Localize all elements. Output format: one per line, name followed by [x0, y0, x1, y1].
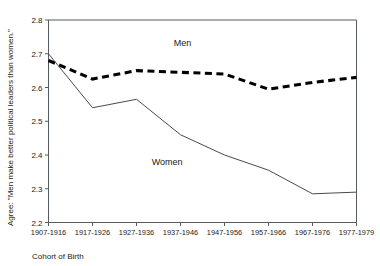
- x-tick-label: 1977-1979: [339, 228, 374, 237]
- y-tick-label: 2.7: [31, 50, 43, 59]
- series-label-men: Men: [174, 38, 192, 48]
- x-tick-label: 1937-1946: [163, 228, 198, 237]
- y-tick-label: 2.6: [31, 84, 43, 93]
- series-line-men: [49, 61, 357, 90]
- line-chart: 2.22.32.42.52.62.72.8 1907-19161917-1926…: [0, 0, 380, 266]
- x-tick-label: 1967-1976: [295, 228, 330, 237]
- data-series-group: [49, 54, 357, 194]
- x-tick-labels: 1907-19161917-19261927-19361937-19461947…: [31, 228, 374, 237]
- y-tick-label: 2.3: [31, 185, 43, 194]
- y-tick-label: 2.4: [31, 151, 43, 160]
- x-tick-label: 1957-1966: [251, 228, 286, 237]
- y-tick-label: 2.5: [31, 117, 43, 126]
- y-tick-label: 2.2: [31, 219, 43, 228]
- series-line-women: [49, 54, 357, 194]
- series-annotations: MenWomen: [152, 38, 192, 166]
- x-tick-label: 1907-1916: [31, 228, 66, 237]
- chart-figure: 2.22.32.42.52.62.72.8 1907-19161917-1926…: [0, 0, 380, 266]
- series-label-women: Women: [152, 157, 183, 167]
- y-tick-label: 2.8: [31, 16, 43, 25]
- x-tick-marks: [49, 223, 357, 227]
- y-axis-title: Agree: "Men make better political leader…: [6, 29, 15, 226]
- x-tick-label: 1917-1926: [75, 228, 110, 237]
- y-tick-marks: [45, 20, 49, 223]
- x-tick-label: 1947-1956: [207, 228, 242, 237]
- x-tick-label: 1927-1936: [119, 228, 154, 237]
- y-tick-labels: 2.22.32.42.52.62.72.8: [31, 16, 43, 228]
- x-axis-title: Cohort of Birth: [32, 252, 84, 261]
